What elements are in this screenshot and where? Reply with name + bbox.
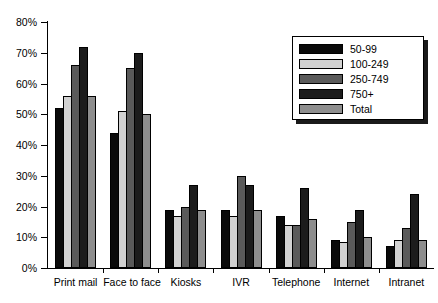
x-axis-tick: [213, 268, 214, 273]
x-axis-category-label: Face to face: [103, 277, 158, 288]
legend-swatch: [299, 89, 343, 99]
bar-group: [165, 22, 206, 268]
bar: [142, 114, 151, 268]
bar-cluster: [165, 22, 206, 268]
legend-swatch: [299, 44, 343, 54]
y-axis-tick: [41, 114, 47, 115]
bar-group: [221, 22, 262, 268]
legend-swatch: [299, 104, 343, 114]
y-axis-tick: [41, 268, 47, 269]
y-axis-tick: [41, 22, 47, 23]
y-axis-line: [47, 21, 48, 269]
y-axis-tick: [41, 145, 47, 146]
bar: [197, 210, 206, 268]
y-axis-tick-label: 20%: [0, 202, 37, 213]
x-axis-tick: [269, 268, 270, 273]
y-axis-tick-label: 30%: [0, 171, 37, 182]
y-axis-tick-label: 50%: [0, 109, 37, 120]
legend-item: Total: [299, 102, 417, 116]
x-axis-line: [47, 268, 434, 269]
x-axis-category-label: Telephone: [269, 277, 324, 288]
y-axis-tick-label: 70%: [0, 48, 37, 59]
bar-cluster: [55, 22, 96, 268]
x-axis-category-label: Internet: [324, 277, 379, 288]
bar: [363, 237, 372, 268]
legend-item: 100-249: [299, 57, 417, 71]
y-axis-tick: [41, 207, 47, 208]
y-axis-tick-label: 0%: [0, 263, 37, 274]
legend-label: 50-99: [350, 44, 377, 55]
chart-legend: 50-99100-249250-749750+Total: [292, 36, 424, 120]
bar: [87, 96, 96, 268]
x-axis-tick: [379, 268, 380, 273]
y-axis-tick: [41, 176, 47, 177]
x-axis-tick: [158, 268, 159, 273]
legend-item: 750+: [299, 87, 417, 101]
y-axis-tick-label: 80%: [0, 17, 37, 28]
x-axis-tick: [103, 268, 104, 273]
y-axis-tick-label: 40%: [0, 140, 37, 151]
x-axis-category-label: Print mail: [48, 277, 103, 288]
x-axis-category-label: IVR: [213, 277, 268, 288]
y-axis-tick-label: 60%: [0, 79, 37, 90]
y-axis-tick-label: 10%: [0, 232, 37, 243]
bar-group: [55, 22, 96, 268]
legend-label: 750+: [350, 89, 374, 100]
legend-swatch: [299, 59, 343, 69]
bar-cluster: [110, 22, 151, 268]
legend-item: 250-749: [299, 72, 417, 86]
bar: [418, 240, 427, 268]
legend-swatch: [299, 74, 343, 84]
y-axis-tick: [41, 53, 47, 54]
bar: [308, 219, 317, 268]
bar-group: [110, 22, 151, 268]
legend-item: 50-99: [299, 42, 417, 56]
x-axis-category-label: Intranet: [379, 277, 434, 288]
bar-cluster: [221, 22, 262, 268]
legend-label: Total: [350, 104, 372, 115]
x-axis-category-label: Kiosks: [158, 277, 213, 288]
legend-label: 250-749: [350, 74, 389, 85]
bar-chart: 0%10%20%30%40%50%60%70%80% Print mailFac…: [0, 0, 438, 303]
y-axis-tick: [41, 237, 47, 238]
bar: [253, 210, 262, 268]
legend-label: 100-249: [350, 59, 389, 70]
y-axis-tick: [41, 84, 47, 85]
x-axis-tick: [324, 268, 325, 273]
